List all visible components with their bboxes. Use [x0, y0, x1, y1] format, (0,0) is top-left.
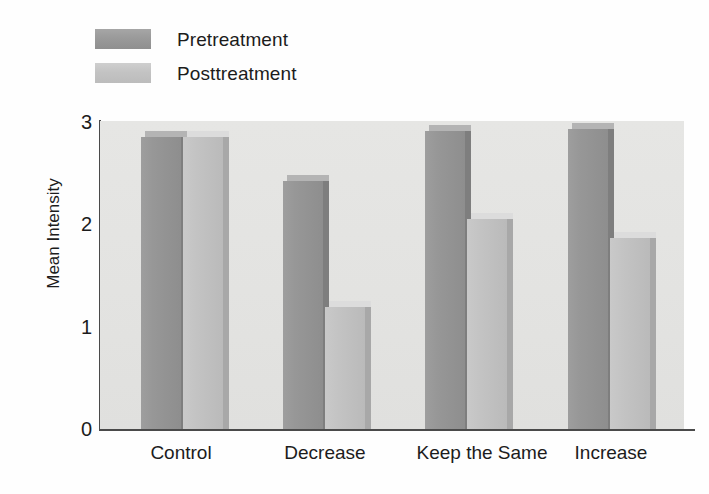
- legend-item-pretreatment: Pretreatment: [95, 22, 415, 56]
- bar-face: [183, 137, 223, 429]
- x-category-label-control: Control: [121, 443, 241, 462]
- x-axis-line: [99, 429, 695, 431]
- bar-face: [610, 238, 650, 429]
- bar-face: [141, 137, 181, 429]
- bar-control-pretreatment: [141, 131, 187, 429]
- y-tick-label-2: 2: [62, 214, 92, 234]
- bar-keep-the-same-pretreatment: [425, 125, 471, 429]
- x-category-label-decrease: Decrease: [262, 443, 388, 462]
- bar-side: [365, 307, 371, 429]
- bar-decrease-posttreatment: [325, 301, 371, 429]
- legend-swatch-posttreatment: [95, 63, 151, 83]
- bar-chart-figure: Pretreatment Posttreatment Mean Intensit…: [0, 0, 709, 494]
- y-tick-label-3: 3: [62, 112, 92, 132]
- y-tick-label-1: 1: [62, 317, 92, 337]
- legend-swatch-pretreatment: [95, 29, 151, 49]
- chart-legend: Pretreatment Posttreatment: [95, 22, 415, 90]
- bar-side: [507, 219, 513, 429]
- bar-side: [223, 137, 229, 429]
- bar-keep-the-same-posttreatment: [467, 213, 513, 429]
- legend-item-posttreatment: Posttreatment: [95, 56, 415, 90]
- bar-face: [283, 181, 323, 429]
- bar-control-posttreatment: [183, 131, 229, 429]
- legend-label-posttreatment: Posttreatment: [177, 64, 297, 83]
- bar-face: [325, 307, 365, 429]
- bar-decrease-pretreatment: [283, 175, 329, 429]
- x-category-label-increase: Increase: [548, 443, 674, 462]
- bar-face: [568, 129, 608, 429]
- legend-label-pretreatment: Pretreatment: [177, 30, 288, 49]
- plot-area: [100, 121, 684, 429]
- bar-increase-pretreatment: [568, 123, 614, 429]
- x-category-label-keep-the-same: Keep the Same: [394, 443, 570, 462]
- y-tick-label-0: 0: [62, 419, 92, 439]
- y-axis-title: Mean Intensity: [45, 154, 62, 314]
- bar-face: [425, 131, 465, 429]
- bar-side: [650, 238, 656, 429]
- bar-increase-posttreatment: [610, 232, 656, 429]
- bar-face: [467, 219, 507, 429]
